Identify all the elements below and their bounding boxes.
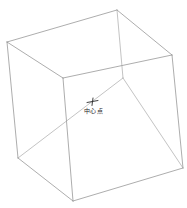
edge-bottom-left-to-bottom-back-hidden <box>18 78 123 158</box>
edge-top-back-to-top-right <box>117 10 172 55</box>
cross-marker-icon <box>85 97 101 107</box>
edge-bottom-right-to-bottom-back-hidden <box>123 78 183 168</box>
edge-top-left-to-top-front <box>7 42 63 78</box>
center-point-label: 中心点 <box>0 107 187 114</box>
edge-top-back-to-top-left <box>7 10 117 42</box>
edge-top-right-to-top-front <box>63 55 172 78</box>
edge-bottom-right-to-bottom-front <box>73 168 183 201</box>
edge-vertical-front <box>63 78 73 201</box>
edge-vertical-back-hidden <box>117 10 123 78</box>
cube-diagram-canvas: 中心点 <box>0 0 187 208</box>
edge-bottom-left-to-bottom-front <box>18 158 73 201</box>
edge-vertical-left <box>7 42 18 158</box>
